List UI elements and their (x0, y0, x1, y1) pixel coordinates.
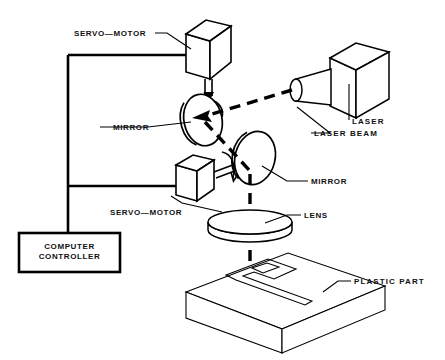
leader-lines (100, 33, 351, 292)
plastic-part[interactable] (186, 253, 385, 353)
label-laser-beam: LASER BEAM (314, 129, 378, 138)
label-servo-motor-bottom: SERVO—MOTOR (110, 208, 182, 217)
computer-controller[interactable]: COMPUTER CONTROLLER (19, 233, 120, 272)
label-laser: LASER (352, 117, 385, 126)
label-plastic-part: PLASTIC PART (354, 277, 425, 286)
control-wiring (68, 55, 186, 233)
label-mirror-top: MIRROR (113, 123, 149, 132)
label-servo-motor-top: SERVO—MOTOR (74, 29, 146, 38)
laser-head[interactable] (290, 43, 389, 118)
computer-controller-label-line1: COMPUTER (44, 242, 95, 251)
servo-motor-bottom[interactable] (176, 155, 214, 201)
mirror-top[interactable] (177, 91, 227, 150)
diagram-canvas: COMPUTER CONTROLLER (0, 0, 445, 360)
laser-engraving-schematic: COMPUTER CONTROLLER (0, 0, 445, 360)
label-mirror-bottom: MIRROR (311, 177, 347, 186)
lens[interactable] (208, 210, 292, 242)
servo-motor-top[interactable] (186, 20, 231, 79)
computer-controller-label-line2: CONTROLLER (39, 252, 101, 261)
label-lens: LENS (304, 211, 328, 220)
